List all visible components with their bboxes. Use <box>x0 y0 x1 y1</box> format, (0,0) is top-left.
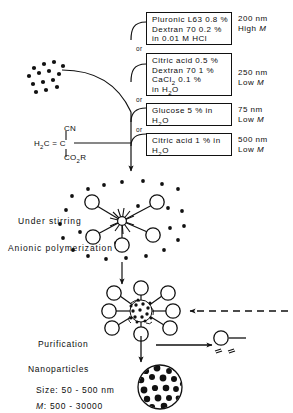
recipe-4-line-2: H2O <box>152 146 227 156</box>
recipe-2-size: 250 nm <box>238 68 268 78</box>
recipe-1-line-1: Pluronic L63 0.8 % <box>152 15 227 25</box>
or-label-3: or <box>136 126 142 133</box>
label-under-stirring: Under stirring <box>18 216 82 226</box>
label-anionic-polymerization: Anionic polymerization <box>8 243 113 253</box>
recipe-box-1[interactable]: Pluronic L63 0.8 % Dextran 70 0.2 % in 0… <box>146 12 232 45</box>
recipe-2-line-4: in H2O <box>152 85 227 95</box>
or-label-1: or <box>136 45 142 52</box>
recipe-4-molecular-weight: Low M <box>238 145 264 155</box>
recipe-1-line-2: Dextran 70 0.2 % <box>152 25 227 35</box>
monomer-bond-lines <box>30 118 90 164</box>
removed-surfactant <box>214 331 246 353</box>
recipe-2-molecular-weight: Low M <box>238 78 264 88</box>
or-label-2: or <box>136 96 142 103</box>
recipe-3-size: 75 nm <box>238 105 263 115</box>
recipe-1-line-3: in 0.01 M HCl <box>152 34 227 44</box>
surfactant-dot-cluster <box>27 60 65 94</box>
recipe-box-3[interactable]: Glucose 5 % in H2O <box>146 103 232 126</box>
recipe-box-4[interactable]: Citric acid 1 % in H2O <box>146 133 232 156</box>
recipe-3-line-2: H2O <box>152 116 227 126</box>
recipe-3-molecular-weight: Low M <box>238 115 264 125</box>
recipe-1-molecular-weight: High M <box>238 24 266 34</box>
recipe-box-2[interactable]: Citric acid 0.5 % Dextran 70 1 % CaCl2 0… <box>146 53 232 96</box>
label-molecular-weight: M: 500 - 30000 <box>36 401 103 411</box>
aqueous-phase-lead-line <box>62 70 131 112</box>
recipe-1-size: 200 nm <box>238 14 268 24</box>
final-nanoparticle <box>134 361 184 413</box>
recipe-2-line-3: CaCl2 0.1 % <box>152 75 227 85</box>
stage-polymerized-cluster <box>102 281 180 341</box>
recipe-4-line-1: Citric acid 1 % in <box>152 136 227 146</box>
label-nanoparticles: Nanoparticles <box>28 364 89 374</box>
recipe-3-line-1: Glucose 5 % in <box>152 106 227 116</box>
polymer-core <box>129 299 154 324</box>
recipe-2-line-2: Dextran 70 1 % <box>152 66 227 76</box>
recipe-4-size: 500 nm <box>238 135 268 145</box>
recipe-2-line-1: Citric acid 0.5 % <box>152 56 227 66</box>
label-purification: Purification <box>38 339 88 349</box>
label-particle-size: Size: 50 - 500 nm <box>36 385 115 395</box>
